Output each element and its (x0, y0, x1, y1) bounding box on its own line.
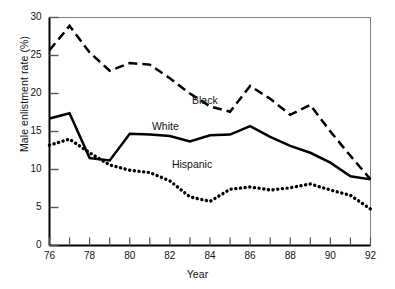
y-tick-label: 0 (16, 239, 42, 250)
y-tick-label: 15 (16, 125, 42, 136)
axis-ticks (50, 18, 371, 246)
series-label-white: White (152, 120, 179, 132)
x-tick-label: 88 (275, 250, 305, 261)
series-label-black: Black (192, 94, 218, 106)
y-tick-label: 10 (16, 163, 42, 174)
series-label-hispanic: Hispanic (172, 158, 212, 170)
series-line-hispanic (50, 139, 371, 209)
x-tick-label: 92 (356, 250, 386, 261)
x-tick-label: 82 (155, 250, 185, 261)
x-tick-label: 80 (115, 250, 145, 261)
x-tick-label: 84 (195, 250, 225, 261)
axes (50, 18, 371, 246)
x-tick-label: 86 (235, 250, 265, 261)
x-tick-label: 90 (315, 250, 345, 261)
y-tick-label: 30 (16, 11, 42, 22)
data-series (50, 26, 371, 209)
x-tick-label: 76 (35, 250, 65, 261)
y-tick-label: 25 (16, 49, 42, 60)
chart-container: Male enlistment rate (%) Year 0510152025… (0, 0, 395, 289)
plot-area (0, 0, 395, 289)
y-tick-label: 5 (16, 201, 42, 212)
y-tick-label: 20 (16, 87, 42, 98)
x-tick-label: 78 (75, 250, 105, 261)
